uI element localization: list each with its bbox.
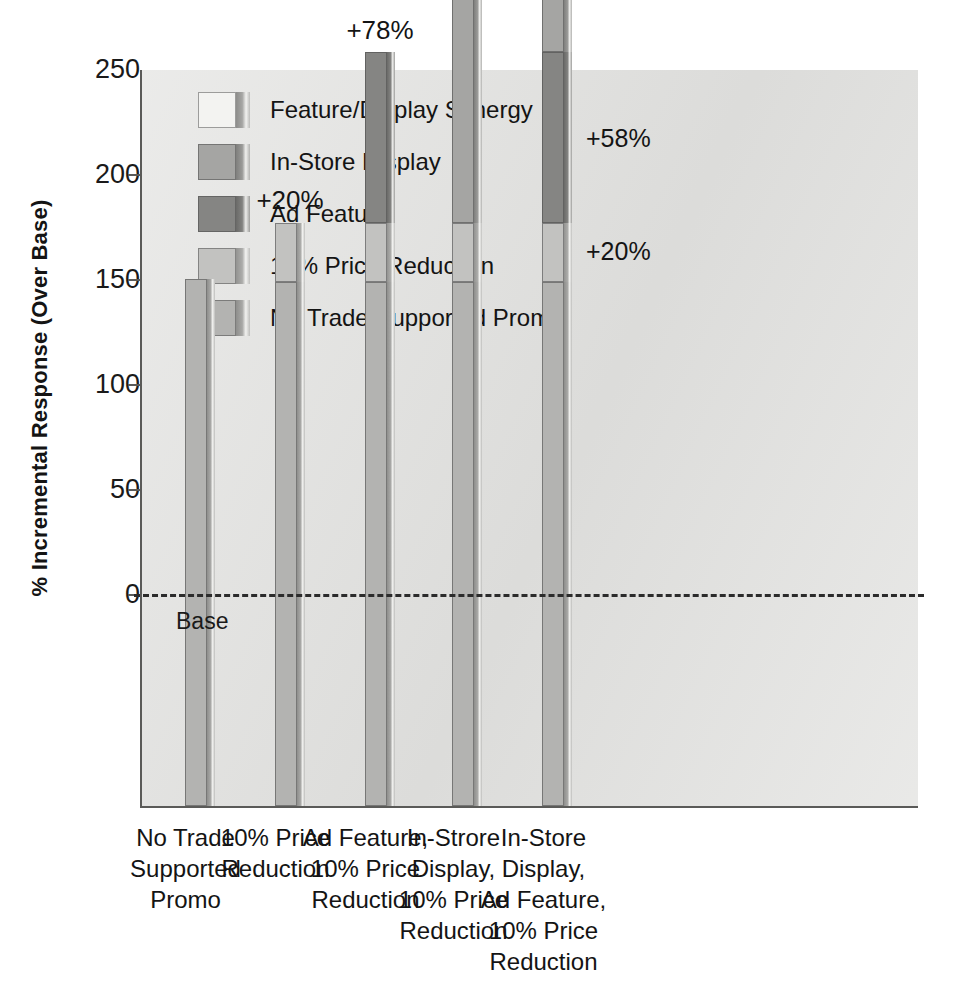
bar-segment-price-reduction-4[interactable] <box>452 223 482 282</box>
bar-total-label-2: +20% <box>215 185 365 216</box>
bar-segment-in-store-display-5[interactable] <box>542 0 572 52</box>
y-tick-label-150: 150 <box>48 266 140 293</box>
bar-group-5[interactable]: +203% +40% +85% +58% +20% <box>542 70 572 806</box>
bar-segment-price-reduction-5[interactable] <box>542 223 572 282</box>
bar-group-1[interactable] <box>185 70 215 806</box>
zero-baseline <box>134 594 924 597</box>
y-tick-label-50: 50 <box>48 476 140 503</box>
bar-group-2[interactable]: +20% <box>275 70 305 806</box>
segment-label-ad-feature: +58% <box>586 124 696 153</box>
segment-label-price-reduction: +20% <box>586 237 696 266</box>
plot-area: Feature/Display Synergy In-Store Display… <box>140 70 918 808</box>
bar-segment-base-2[interactable] <box>275 282 305 806</box>
bar-segment-price-reduction-2[interactable] <box>275 223 305 282</box>
legend-label-no-promo: No Trade Supported Promo <box>270 304 564 332</box>
y-tick-label-100: 100 <box>48 371 140 398</box>
bar-total-label-3: +78% <box>305 15 455 46</box>
x-label-line: 10% Price <box>456 915 631 946</box>
baseline-label: Base <box>176 608 228 635</box>
y-tick-label-250: 250 <box>48 56 140 83</box>
bar-segment-no-promo[interactable] <box>185 279 215 806</box>
bar-segment-base-4[interactable] <box>452 282 482 806</box>
bar-segment-base-3[interactable] <box>365 282 395 806</box>
bar-segment-ad-feature-5[interactable] <box>542 52 572 223</box>
bar-group-4[interactable]: +105% <box>452 70 482 806</box>
bar-segment-base-5[interactable] <box>542 282 572 806</box>
bar-group-3[interactable]: +78% <box>365 70 395 806</box>
x-label-line: Ad Feature, <box>456 884 631 915</box>
y-axis-title: % Incremental Response (Over Base) <box>27 138 53 658</box>
x-axis-label-5: In-Store Display, Ad Feature, 10% Price … <box>456 822 631 977</box>
bar-segment-ad-feature-3[interactable] <box>365 52 395 223</box>
bar-segment-in-store-display-4[interactable] <box>452 0 482 223</box>
legend-label-synergy: Feature/Display Synergy <box>270 96 533 124</box>
x-label-line: In-Store <box>456 822 631 853</box>
y-tick-label-0: 0 <box>48 581 140 608</box>
x-label-line: Reduction <box>456 946 631 977</box>
bar-segment-price-reduction-3[interactable] <box>365 223 395 282</box>
x-label-line: Promo <box>98 884 273 915</box>
x-label-line: Display, <box>456 853 631 884</box>
y-tick-label-200: 200 <box>48 161 140 188</box>
